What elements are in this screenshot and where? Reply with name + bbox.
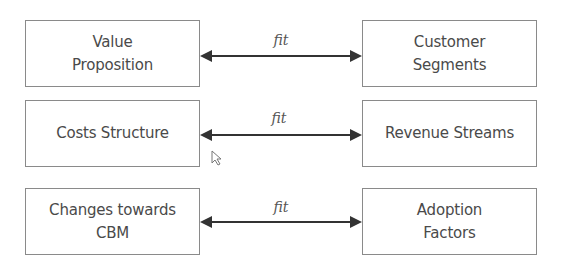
mouse-cursor-icon (211, 150, 223, 170)
bidirectional-arrow-row2 (200, 129, 362, 141)
fit-label-row2: fit (249, 110, 309, 126)
fit-label-row3: fit (251, 199, 311, 215)
bidirectional-arrow-row1 (200, 50, 362, 62)
box-costs-structure: Costs Structure (25, 100, 200, 167)
box-customer-segments: Customer Segments (362, 20, 537, 87)
bidirectional-arrow-row3 (200, 216, 362, 228)
box-revenue-streams: Revenue Streams (362, 100, 537, 167)
box-changes-towards-cbm: Changes towards CBM (25, 188, 200, 255)
box-value-proposition: Value Proposition (25, 20, 200, 87)
box-adoption-factors: Adoption Factors (362, 188, 537, 255)
fit-label-row1: fit (251, 32, 311, 48)
